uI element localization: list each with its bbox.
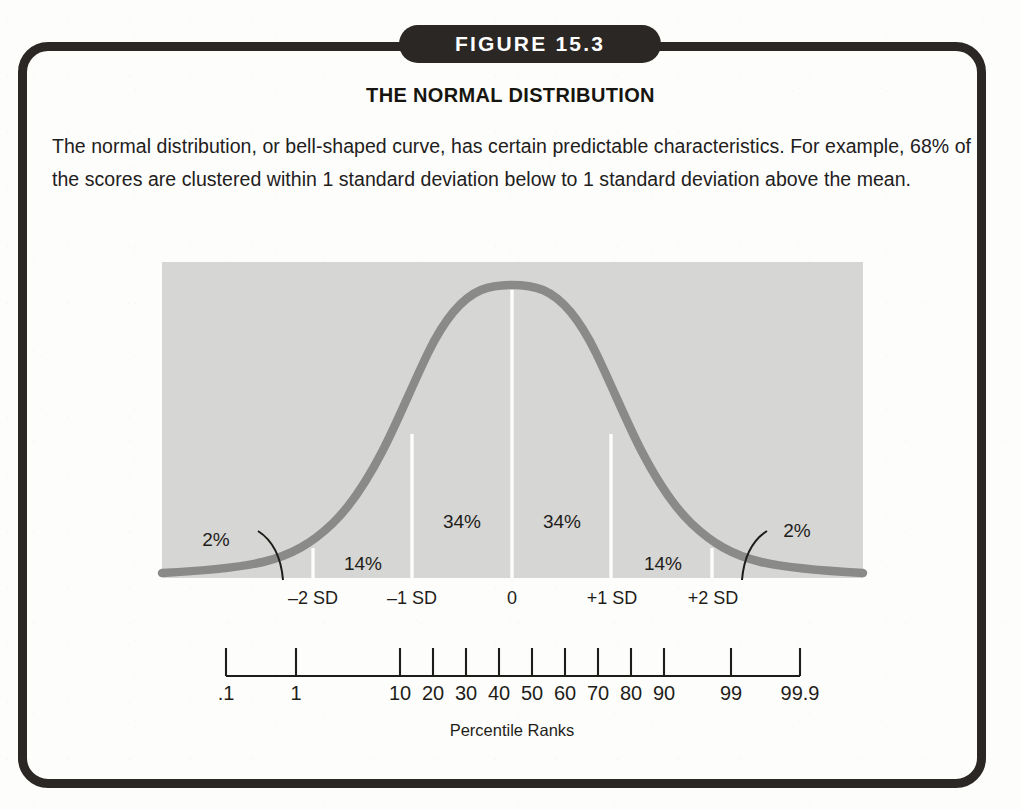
percentile-label-p80: 80 (620, 682, 642, 704)
percent-label-left-14: 14% (344, 553, 382, 574)
sd-label-plus1: +1 SD (587, 588, 638, 608)
sd-label-minus1: –1 SD (387, 588, 437, 608)
percent-label-right-14: 14% (644, 553, 682, 574)
percentile-label-p20: 20 (422, 682, 444, 704)
percent-label-left-2: 2% (202, 529, 230, 550)
percentile-axis-caption: Percentile Ranks (450, 721, 575, 739)
percentile-label-p60: 60 (554, 682, 576, 704)
percentile-label-p1: 1 (290, 682, 301, 704)
percentile-label-p10: 10 (389, 682, 411, 704)
percentile-label-p99: 99 (720, 682, 742, 704)
percent-label-right-2: 2% (783, 520, 811, 541)
percentile-axis-line (226, 648, 800, 676)
percentile-label-p50: 50 (521, 682, 543, 704)
percentile-label-p40: 40 (488, 682, 510, 704)
percentile-label-p90: 90 (653, 682, 675, 704)
percentile-label-p999: 99.9 (781, 682, 820, 704)
figure-number-badge: FIGURE 15.3 (399, 25, 661, 63)
percentile-label-p01: .1 (218, 682, 235, 704)
percent-label-left-34: 34% (443, 511, 481, 532)
figure-page: FIGURE 15.3 THE NORMAL DISTRIBUTION The … (0, 0, 1021, 810)
normal-distribution-chart: 2% 14% 34% 34% 14% 2% –2 SD –1 SD 0 +1 S… (0, 0, 1021, 810)
percentile-label-p70: 70 (587, 682, 609, 704)
percentile-label-p30: 30 (455, 682, 477, 704)
chart-svg: 2% 14% 34% 34% 14% 2% –2 SD –1 SD 0 +1 S… (0, 0, 1021, 810)
sd-label-zero: 0 (507, 588, 517, 608)
sd-label-plus2: +2 SD (688, 588, 739, 608)
sd-label-minus2: –2 SD (288, 588, 338, 608)
percent-label-right-34: 34% (543, 511, 581, 532)
